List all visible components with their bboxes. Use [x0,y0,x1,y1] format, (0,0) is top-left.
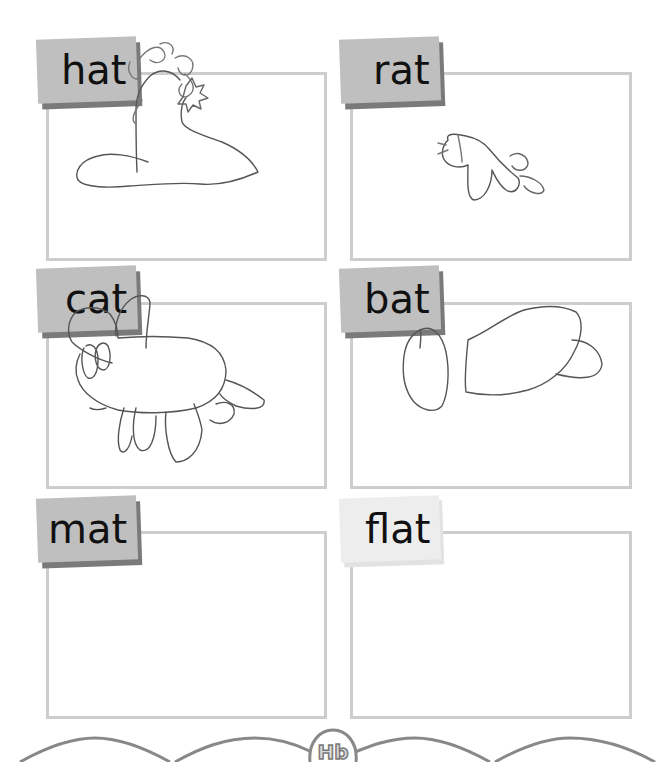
word-tab-bat: bat [339,265,441,332]
word-tab-rat: rat [339,36,441,103]
publisher-logo: Hb [316,740,350,762]
word-label: bat [364,279,430,319]
word-tab-hat: hat [36,36,138,103]
word-label: mat [48,509,127,549]
word-tab-flat: flat [339,495,441,562]
word-tab-mat: mat [36,495,138,562]
word-label: flat [365,509,430,549]
word-label: hat [61,50,127,90]
word-label: rat [373,50,430,90]
word-label: cat [65,279,127,319]
word-tab-cat: cat [36,265,138,332]
worksheet-page: hat rat cat bat mat flat [0,0,665,762]
